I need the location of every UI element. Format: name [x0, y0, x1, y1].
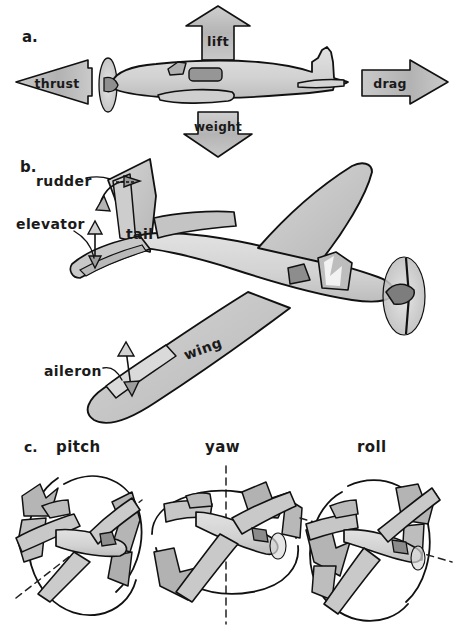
aircraft-diagram-figure: a. lift weight thrust drag — [0, 0, 459, 641]
axis-label-roll: roll — [357, 438, 387, 456]
yaw-propeller-disc — [270, 533, 286, 559]
yaw-canopy — [252, 528, 268, 542]
panel-a-letter: a. — [22, 28, 38, 46]
roll-canopy — [392, 540, 408, 554]
yaw-fin — [186, 493, 212, 508]
panel-c-letter: c. — [24, 439, 38, 455]
canopy-window — [189, 68, 222, 81]
roll-propeller-disc — [411, 546, 425, 570]
part-label-tail: tail — [126, 226, 153, 242]
axis-label-pitch: pitch — [56, 438, 101, 456]
force-label-thrust: thrust — [34, 76, 79, 91]
part-label-elevator: elevator — [16, 216, 85, 232]
force-label-lift: lift — [207, 34, 229, 49]
force-label-weight: weight — [194, 120, 242, 134]
part-label-rudder: rudder — [36, 173, 92, 189]
axis-label-yaw: yaw — [205, 438, 240, 456]
panel-b-letter: b. — [20, 158, 36, 176]
wing-side — [158, 90, 234, 104]
part-label-aileron: aileron — [44, 363, 102, 379]
force-label-drag: drag — [373, 76, 407, 91]
